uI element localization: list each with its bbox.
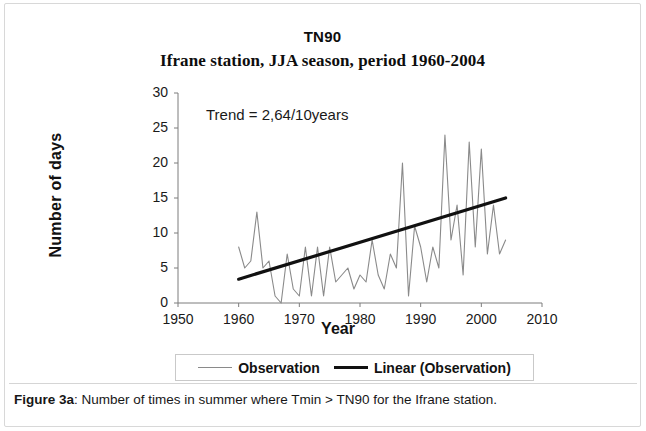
legend-item-observation: Observation (198, 360, 320, 376)
y-tick-20: 20 (134, 154, 168, 170)
x-tick-1960: 1960 (211, 311, 267, 327)
y-tick-25: 25 (134, 119, 168, 135)
figure-caption: Figure 3a: Number of times in summer whe… (14, 392, 634, 407)
caption-label: Figure 3a (14, 392, 74, 407)
y-tick-15: 15 (134, 189, 168, 205)
y-tick-0: 0 (134, 294, 168, 310)
legend-label-observation: Observation (238, 360, 320, 376)
line-swatch-icon (198, 367, 232, 368)
y-tick-10: 10 (134, 224, 168, 240)
figure-container: TN90 Ifrane station, JJA season, period … (0, 0, 646, 431)
caption-text: Number of times in summer where Tmin > T… (82, 392, 498, 407)
y-tick-30: 30 (134, 84, 168, 100)
x-tick-1980: 1980 (332, 311, 388, 327)
chart-card: TN90 Ifrane station, JJA season, period … (8, 6, 637, 381)
x-tick-2010: 2010 (514, 311, 570, 327)
caption-separator: : (74, 392, 82, 407)
series-observation (239, 135, 506, 303)
plot-svg (8, 6, 637, 346)
y-tick-5: 5 (134, 259, 168, 275)
series-linear-trend (239, 198, 506, 279)
caption-divider (9, 383, 637, 384)
plot-area: Number of days Year Trend = 2,64/10years… (8, 6, 637, 346)
x-tick-1990: 1990 (393, 311, 449, 327)
x-tick-1970: 1970 (271, 311, 327, 327)
x-tick-1950: 1950 (150, 311, 206, 327)
legend-item-linear: Linear (Observation) (334, 360, 511, 376)
thick-line-swatch-icon (334, 366, 368, 369)
x-tick-2000: 2000 (453, 311, 509, 327)
chart-legend: Observation Linear (Observation) (175, 354, 534, 381)
legend-label-linear: Linear (Observation) (374, 360, 511, 376)
